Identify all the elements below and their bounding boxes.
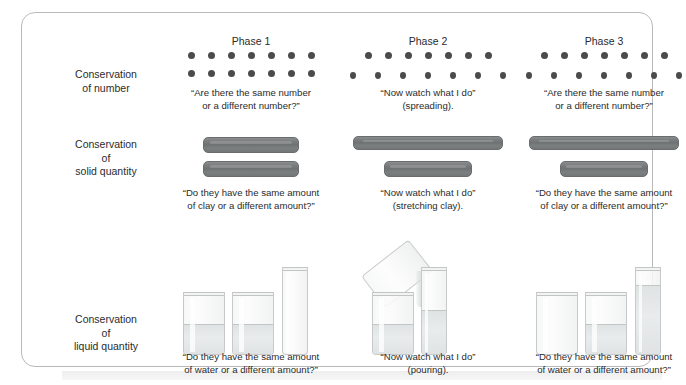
row-label-conservation-of-solid-quantity: Conservationofsolid quantity [46,138,166,179]
column-phase-1: Phase 1 “Are there the same numberor a d… [163,13,339,385]
phase-2-liquid-caption: “Now watch what I do”(pouring). [340,351,516,376]
phase-3-number-caption: “Are there the same numberor a different… [516,87,686,112]
column-phase-2: Phase 2 “Now watch what I do”(spreading)… [340,13,516,385]
dot [651,72,657,79]
dot [228,52,235,59]
phase-3-dot-row-top [516,49,686,61]
glass-sheen [543,298,548,352]
dot [641,52,648,59]
dot [400,72,406,79]
dot [288,70,295,77]
phase-2-tall-cylinder [421,267,447,355]
phase-2-glassware [340,225,516,360]
dot [288,52,295,59]
phase-2-number-caption: “Now watch what I do”(spreading). [340,87,516,112]
phase-3-tall-cylinder-full [635,267,661,355]
dot [551,72,557,79]
dot [375,72,381,79]
cylinder-rim [282,267,308,271]
phase-1-title: Phase 1 [163,35,339,47]
dot [541,52,548,59]
figure-card: Conservationof number Conservationofsoli… [21,12,653,367]
phase-2-dot-row-bottom [340,69,516,81]
dot [500,72,506,79]
phase-3-dot-row-bottom [516,69,686,81]
cylinder-rim [421,267,447,271]
glass-sheen [639,273,642,352]
phase-1-liquid-caption: “Do they have the same amountof water or… [163,351,339,376]
beaker-rim [232,292,274,296]
phase-3-glassware [516,250,686,360]
phase-2-dot-row-top [340,49,516,61]
dot [228,70,235,77]
dot [425,72,431,79]
row-label-conservation-of-liquid-quantity: Conservationofliquid quantity [46,313,166,354]
phase-2-beaker-a [372,292,414,355]
phase-2-clay-caption: “Now watch what I do”(stretching clay). [340,187,516,212]
dot [188,52,195,59]
dot [308,70,315,77]
glass-sheen [379,298,384,352]
cylinder-rim [635,267,661,271]
dot [450,72,456,79]
dot [268,52,275,59]
dot [208,52,215,59]
dot [475,72,481,79]
dot [425,52,432,59]
phase-3-clay-caption: “Do they have the same amountof clay or … [516,187,686,212]
dot [581,52,588,59]
dot [561,52,568,59]
dot [465,52,472,59]
dot [188,70,195,77]
phase-1-glassware [163,250,339,360]
beaker-rim [585,292,627,296]
phase-1-beaker-a [183,292,225,355]
dot [385,52,392,59]
dot [485,52,492,59]
dot [576,72,582,79]
phase-3-liquid-caption: “Do they have the same amountof water or… [516,351,686,376]
glass-sheen [239,298,244,352]
phase-3-clay-top-stretched [516,136,686,150]
phase-1-clay-top [163,137,339,153]
dot [248,70,255,77]
row-label-conservation-of-number: Conservationof number [46,68,166,95]
phase-3-beaker-b [585,292,627,355]
dot [526,72,532,79]
beaker-rim [536,292,578,296]
phase-2-clay-bottom [340,161,516,177]
dot [676,72,682,79]
beaker-rim [372,292,414,296]
beaker-rim [183,292,225,296]
phase-1-number-caption: “Are there the same numberor a different… [163,87,339,112]
dot [248,52,255,59]
dot [365,52,372,59]
phase-1-beaker-b [232,292,274,355]
dot [405,52,412,59]
phase-3-clay-bottom [516,161,686,177]
dot [601,52,608,59]
phase-2-title: Phase 2 [340,35,516,47]
phase-2-clay-top-stretched [340,136,516,150]
glass-sheen [425,273,428,352]
glass-sheen [286,273,289,352]
phase-1-dot-row-bottom [163,67,339,79]
dot [445,52,452,59]
phase-1-clay-caption: “Do they have the same amountof clay or … [163,187,339,212]
dot [601,72,607,79]
dot [268,70,275,77]
column-phase-3: Phase 3 “Are there the same numberor a d… [516,13,686,385]
phase-3-title: Phase 3 [516,35,686,47]
glass-sheen [592,298,597,352]
dot [626,72,632,79]
dot [308,52,315,59]
phase-1-clay-bottom [163,161,339,177]
dot [350,72,356,79]
dot [661,52,668,59]
phase-1-dot-row-top [163,49,339,61]
glass-sheen [190,298,195,352]
phase-3-beaker-a-empty [536,292,578,355]
phase-1-tall-cylinder [282,267,308,355]
dot [208,70,215,77]
